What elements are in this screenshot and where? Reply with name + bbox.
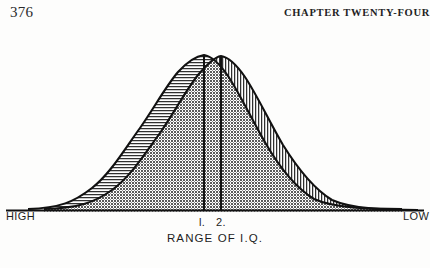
tick-label-2: 2. — [216, 216, 226, 228]
iq-distribution-figure: HIGH LOW l. 2. RANGE OF I.Q. — [0, 20, 430, 268]
axis-label-low: LOW — [403, 210, 429, 222]
overlap-region — [0, 20, 430, 220]
chapter-running-head: CHAPTER TWENTY-FOUR — [284, 7, 430, 18]
page-number: 376 — [10, 4, 33, 21]
axis-label-high: HIGH — [6, 210, 35, 222]
textbook-page: 376 CHAPTER TWENTY-FOUR — [0, 0, 430, 268]
tick-label-1: l. — [199, 216, 205, 228]
axis-title: RANGE OF I.Q. — [0, 232, 430, 244]
overlapping-bell-curves-chart — [0, 20, 430, 220]
